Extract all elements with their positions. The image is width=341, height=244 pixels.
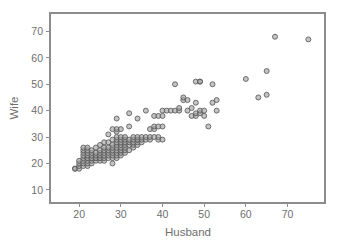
scatter-plot-figure: 203040506070 10203040506070 Husband Wife bbox=[0, 0, 341, 244]
x-tick-label: 40 bbox=[157, 208, 169, 220]
y-tick-label: 60 bbox=[31, 52, 43, 64]
data-point bbox=[106, 132, 111, 137]
data-point bbox=[118, 127, 123, 132]
data-point bbox=[214, 108, 219, 113]
x-tick-label: 20 bbox=[73, 208, 85, 220]
x-axis-ticks: 203040506070 bbox=[73, 203, 293, 220]
data-point bbox=[127, 124, 132, 129]
y-axis-label: Wife bbox=[8, 97, 20, 120]
data-point bbox=[189, 106, 194, 111]
data-point bbox=[160, 137, 165, 142]
x-tick-label: 60 bbox=[240, 208, 252, 220]
data-point bbox=[306, 37, 311, 42]
data-point bbox=[214, 98, 219, 103]
data-point bbox=[264, 69, 269, 74]
data-point bbox=[198, 79, 203, 84]
data-point bbox=[177, 106, 182, 111]
data-point bbox=[114, 116, 119, 121]
data-point bbox=[273, 34, 278, 39]
data-point bbox=[210, 82, 215, 87]
data-point bbox=[243, 76, 248, 81]
data-points bbox=[73, 34, 311, 171]
y-axis-ticks: 10203040506070 bbox=[31, 25, 50, 195]
y-tick-label: 10 bbox=[31, 184, 43, 196]
data-point bbox=[202, 113, 207, 118]
x-tick-label: 70 bbox=[282, 208, 294, 220]
y-tick-label: 70 bbox=[31, 25, 43, 37]
data-point bbox=[160, 113, 165, 118]
husband-wife-scatter-chart: 203040506070 10203040506070 Husband Wife bbox=[0, 0, 341, 244]
data-point bbox=[160, 124, 165, 129]
data-point bbox=[193, 100, 198, 105]
y-tick-label: 30 bbox=[31, 131, 43, 143]
data-point bbox=[127, 111, 132, 116]
data-point bbox=[185, 98, 190, 103]
data-point bbox=[202, 108, 207, 113]
data-point bbox=[173, 82, 178, 87]
data-point bbox=[110, 161, 115, 166]
data-point bbox=[256, 95, 261, 100]
x-tick-label: 50 bbox=[198, 208, 210, 220]
data-point bbox=[135, 116, 140, 121]
x-tick-label: 30 bbox=[115, 208, 127, 220]
data-point bbox=[206, 124, 211, 129]
y-tick-label: 40 bbox=[31, 104, 43, 116]
data-point bbox=[264, 92, 269, 97]
x-axis-label: Husband bbox=[165, 226, 211, 238]
y-tick-label: 20 bbox=[31, 157, 43, 169]
data-point bbox=[143, 108, 148, 113]
y-tick-label: 50 bbox=[31, 78, 43, 90]
